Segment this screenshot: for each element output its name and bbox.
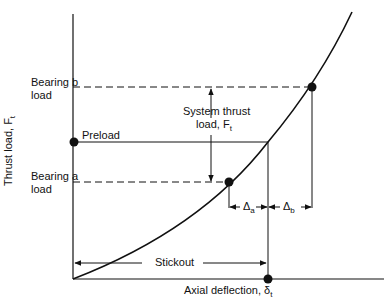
delta-a-label: Δa [243,200,255,217]
stickout-label: Stickout [155,256,194,268]
diagram-graphics [0,0,389,301]
bearing-b-point [308,83,317,92]
system-thrust-label-1: System thrust [183,105,250,117]
x-axis-label: Axial deflection, δt [184,284,272,301]
bearing-a-point [225,178,234,187]
y-axis-label: Thrust load, Ft [2,116,17,186]
diagram: Thrust load, Ft Bearing b load Bearing a… [0,0,389,301]
bearing-b-label-2: load [31,89,52,101]
bearing-a-label-2: load [31,183,52,195]
preload-point [70,138,79,147]
system-thrust-label-2: load, Ft [196,118,232,135]
delta-b-label: Δb [283,200,295,217]
bearing-b-label-1: Bearing b [31,76,78,88]
bearing-a-label-1: Bearing a [31,170,78,182]
stickout-point [264,275,273,284]
preload-label: Preload [82,129,120,141]
load-deflection-curve [73,12,352,279]
